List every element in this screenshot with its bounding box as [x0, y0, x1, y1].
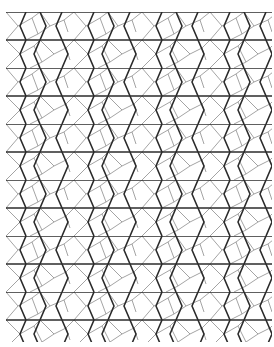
tiling-canvas: [0, 0, 274, 347]
geometric-tiling-image: [0, 0, 274, 347]
tiling-fill: [6, 12, 272, 342]
